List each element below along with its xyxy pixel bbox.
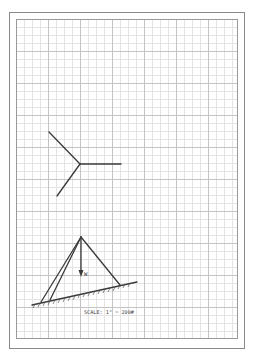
vector-upper-left: [49, 132, 80, 164]
force-vector-diagram: [49, 132, 121, 196]
tripod-leg-left-2: [50, 237, 81, 300]
scale-caption: SCALE: 1" = 200#: [84, 309, 135, 315]
tripod-leg-left-1: [41, 237, 81, 302]
free-body-diagram: W SCALE: 1" = 200#: [0, 0, 253, 354]
weight-label: W: [84, 271, 88, 277]
vector-lower-left: [57, 164, 80, 196]
weight-arrow-head-icon: [79, 270, 84, 277]
tripod-leg-right: [81, 237, 120, 285]
tripod-on-incline: W: [32, 237, 137, 308]
